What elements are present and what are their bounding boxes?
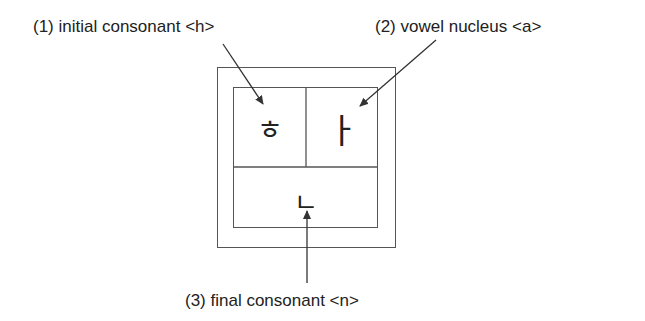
arrow-vowel <box>360 40 436 106</box>
vowel-nucleus-jamo: ㅏ <box>307 98 377 158</box>
diagram-lines <box>0 0 645 321</box>
arrow-initial <box>223 44 263 104</box>
initial-consonant-jamo: ㅎ <box>235 100 305 155</box>
final-consonant-jamo: ㄴ <box>235 180 377 220</box>
